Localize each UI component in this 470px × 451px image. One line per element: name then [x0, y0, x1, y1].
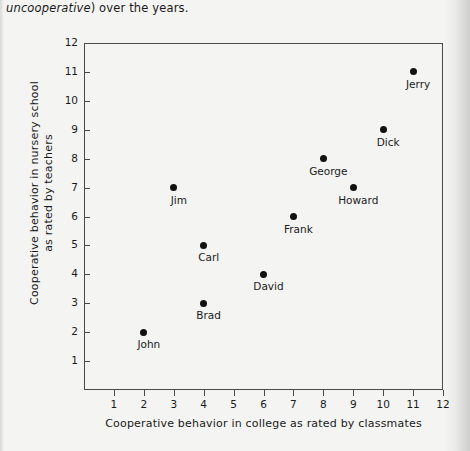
x-axis-tick-label: 7: [281, 398, 305, 410]
x-axis-tick: [443, 390, 444, 396]
x-axis-title-line2: as rated by classmates: [290, 417, 422, 430]
y-axis-tick: [84, 72, 90, 73]
y-axis-tick-label: 9: [58, 123, 78, 135]
y-axis-title: Cooperative behavior in nursery school a…: [28, 73, 56, 313]
data-point-label: Jerry: [406, 78, 430, 90]
y-axis-tick-label: 7: [58, 181, 78, 193]
data-point: [260, 271, 267, 278]
x-axis-tick-label: 9: [341, 398, 365, 410]
y-axis-tick: [84, 130, 90, 131]
body-text-roman: ) over the years.: [91, 1, 189, 15]
y-axis-tick-label: 6: [58, 210, 78, 222]
x-axis-title-line1: Cooperative behavior in college: [105, 417, 286, 430]
body-paragraph-fragment: uncooperative) over the years.: [6, 1, 189, 16]
x-axis-tick-label: 12: [431, 398, 455, 410]
y-axis-tick: [84, 361, 90, 362]
x-axis-tick: [204, 390, 205, 396]
x-axis-tick: [264, 390, 265, 396]
y-axis-tick: [84, 101, 90, 102]
data-point-label: Howard: [338, 194, 378, 206]
x-axis-tick: [174, 390, 175, 396]
y-axis-tick: [84, 332, 90, 333]
y-axis-tick: [84, 159, 90, 160]
x-axis-tick-label: 2: [132, 398, 156, 410]
data-point-label: George: [309, 165, 347, 177]
data-point: [320, 155, 327, 162]
data-point-label: Dick: [377, 136, 400, 148]
data-point: [140, 329, 147, 336]
y-axis-title-line2: as rated by teachers: [42, 73, 56, 313]
y-axis-tick: [84, 303, 90, 304]
data-point-label: John: [137, 338, 160, 350]
y-axis-tick-label: 1: [58, 354, 78, 366]
x-axis-title: Cooperative behavior in college as rated…: [84, 416, 443, 431]
y-axis-tick-label: 4: [58, 267, 78, 279]
data-point-label: Jim: [171, 194, 187, 206]
x-axis-tick-label: 6: [252, 398, 276, 410]
data-point: [200, 242, 207, 249]
x-axis-tick-label: 11: [401, 398, 425, 410]
scatter-plot-figure: 123456789101112123456789101112JohnBradDa…: [0, 24, 470, 451]
x-axis-tick: [383, 390, 384, 396]
x-axis-tick-label: 1: [102, 398, 126, 410]
x-axis-tick: [323, 390, 324, 396]
y-axis-tick-label: 12: [58, 36, 78, 48]
data-point: [290, 213, 297, 220]
y-axis-tick-label: 5: [58, 238, 78, 250]
data-point-label: Carl: [198, 251, 219, 263]
y-axis-tick-label: 10: [58, 94, 78, 106]
y-axis-tick-label: 8: [58, 152, 78, 164]
data-point-label: Brad: [196, 309, 221, 321]
data-point: [410, 68, 417, 75]
x-axis-tick-label: 5: [222, 398, 246, 410]
x-axis-tick-label: 4: [192, 398, 216, 410]
x-axis-tick: [144, 390, 145, 396]
data-point-label: Frank: [284, 223, 313, 235]
x-axis-tick: [293, 390, 294, 396]
x-axis-tick-label: 8: [311, 398, 335, 410]
x-axis-tick: [413, 390, 414, 396]
y-axis-tick: [84, 245, 90, 246]
data-point: [200, 300, 207, 307]
y-axis-tick: [84, 217, 90, 218]
y-axis-tick: [84, 274, 90, 275]
data-point-label: David: [253, 280, 283, 292]
y-axis-tick: [84, 188, 90, 189]
y-axis-tick-label: 11: [58, 65, 78, 77]
y-axis-tick-label: 3: [58, 296, 78, 308]
y-axis-tick-label: 2: [58, 325, 78, 337]
data-point: [380, 126, 387, 133]
x-axis-tick-label: 10: [371, 398, 395, 410]
x-axis-tick-label: 3: [162, 398, 186, 410]
y-axis-title-line1: Cooperative behavior in nursery school: [28, 73, 42, 313]
y-axis-tick: [84, 43, 90, 44]
x-axis-tick: [114, 390, 115, 396]
x-axis-tick: [353, 390, 354, 396]
x-axis-tick: [234, 390, 235, 396]
body-text-italic: uncooperative: [6, 1, 91, 15]
data-point: [350, 184, 357, 191]
